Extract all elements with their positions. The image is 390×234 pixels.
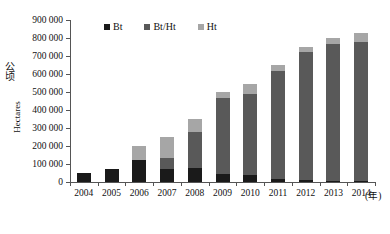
- x-axis-tick-label: 2013: [324, 188, 343, 198]
- bar-2005: [105, 20, 119, 182]
- x-axis-tick: [70, 182, 71, 186]
- x-axis-tick: [264, 182, 265, 186]
- bar-segment-bt: [105, 169, 119, 182]
- bar-segment-bt: [188, 168, 202, 182]
- y-axis-tick: [66, 56, 70, 57]
- y-axis-tick: [66, 74, 70, 75]
- bar-segment-ht: [326, 38, 340, 44]
- bar-segment-bt: [160, 169, 174, 183]
- bar-segment-bt-ht: [216, 98, 230, 174]
- bar-segment-ht: [243, 84, 257, 94]
- bar-segment-bt-ht: [326, 44, 340, 181]
- x-axis-unit-label: (年): [365, 188, 381, 202]
- bar-segment-ht: [216, 92, 230, 98]
- bar-segment-bt: [216, 174, 230, 182]
- stacked-bar-chart: 公顷 Hectares BtBt/HtHt 0100 000200 000300…: [0, 0, 390, 234]
- bar-segment-bt-ht: [271, 71, 285, 179]
- bar-segment-ht: [132, 146, 146, 160]
- y-axis-tick: [66, 110, 70, 111]
- bar-2012: [299, 20, 313, 182]
- bar-segment-bt: [326, 181, 340, 182]
- bar-segment-bt: [299, 180, 313, 182]
- bar-2014: [354, 20, 368, 182]
- bar-2013: [326, 20, 340, 182]
- y-axis-tick-label: 500 000: [32, 87, 63, 97]
- x-axis-tick: [236, 182, 237, 186]
- bar-2011: [271, 20, 285, 182]
- x-axis-line: [70, 182, 376, 183]
- x-axis-tick: [181, 182, 182, 186]
- x-axis-tick-label: 2004: [74, 188, 93, 198]
- bar-segment-bt: [271, 179, 285, 182]
- bar-segment-bt-ht: [299, 52, 313, 180]
- bar-segment-bt-ht: [243, 94, 257, 175]
- x-axis-tick: [320, 182, 321, 186]
- plot-area: 0100 000200 000300 000400 000500 000600 …: [70, 20, 375, 182]
- y-axis-tick-label: 200 000: [32, 141, 63, 151]
- bar-2006: [132, 20, 146, 182]
- y-axis-tick-label: 800 000: [32, 33, 63, 43]
- y-axis-tick: [66, 92, 70, 93]
- bar-2004: [77, 20, 91, 182]
- y-axis-tick: [66, 146, 70, 147]
- y-axis-tick: [66, 128, 70, 129]
- y-axis-tick-label: 600 000: [32, 69, 63, 79]
- bar-2010: [243, 20, 257, 182]
- bar-segment-bt-ht: [354, 42, 368, 181]
- x-axis-tick: [125, 182, 126, 186]
- y-axis-tick-label: 900 000: [32, 15, 63, 25]
- bar-segment-bt: [354, 181, 368, 182]
- y-axis-tick: [66, 164, 70, 165]
- y-axis-tick-label: 100 000: [32, 159, 63, 169]
- bar-segment-ht: [299, 47, 313, 52]
- bar-segment-bt-ht: [188, 132, 202, 168]
- bar-segment-ht: [188, 119, 202, 132]
- x-axis-tick-label: 2012: [296, 188, 315, 198]
- y-axis-tick: [66, 20, 70, 21]
- x-axis-tick-label: 2008: [185, 188, 204, 198]
- bar-2009: [216, 20, 230, 182]
- x-axis-tick: [153, 182, 154, 186]
- bar-segment-ht: [354, 33, 368, 43]
- bar-segment-bt: [77, 173, 91, 182]
- x-axis-tick: [292, 182, 293, 186]
- x-axis-tick-label: 2005: [102, 188, 121, 198]
- y-axis-tick-label: 700 000: [32, 51, 63, 61]
- y-axis-title: 公顷 Hectares: [0, 28, 26, 168]
- y-axis-tick-label: 0: [58, 177, 63, 187]
- x-axis-tick: [209, 182, 210, 186]
- x-axis-tick: [375, 182, 376, 186]
- bar-segment-ht: [271, 65, 285, 71]
- bar-segment-bt: [243, 175, 257, 182]
- x-axis-tick-label: 2010: [241, 188, 260, 198]
- bar-2008: [188, 20, 202, 182]
- x-axis-tick-label: 2011: [269, 188, 288, 198]
- bar-2007: [160, 20, 174, 182]
- y-axis-title-cn: 公顷: [4, 62, 15, 82]
- bar-segment-bt-ht: [160, 158, 174, 169]
- x-axis-tick-label: 2006: [130, 188, 149, 198]
- bar-segment-bt: [132, 160, 146, 183]
- x-axis-tick: [98, 182, 99, 186]
- x-axis-tick-label: 2009: [213, 188, 232, 198]
- y-axis-tick: [66, 38, 70, 39]
- y-axis-tick-label: 400 000: [32, 105, 63, 115]
- y-axis-title-en: Hectares: [12, 86, 22, 148]
- x-axis-tick-label: 2007: [158, 188, 177, 198]
- bar-segment-ht: [160, 137, 174, 158]
- x-axis-tick: [347, 182, 348, 186]
- y-axis-tick-label: 300 000: [32, 123, 63, 133]
